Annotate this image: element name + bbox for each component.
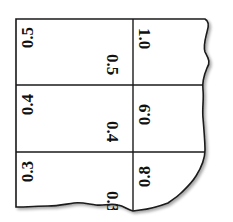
cell-value-r0-mid: 0.5 [104, 54, 121, 75]
cell-value-r1-left: 0.4 [19, 94, 36, 115]
cell-value-r1-mid: 0.4 [104, 121, 121, 142]
cell-value-r2-mid: 0.3 [104, 191, 121, 210]
cell-value-r0-left: 0.5 [19, 27, 36, 48]
cell-value-r1-right: 0.9 [136, 104, 153, 125]
cell-value-r0-right: 1.0 [136, 28, 153, 49]
cell-value-r2-left: 0.3 [19, 161, 36, 182]
torn-cell-clip: 0.3 [100, 175, 130, 210]
cell-value-r2-right: 0.8 [136, 166, 153, 187]
torn-table-fragment: 0.5 0.5 1.0 0.4 0.4 0.9 0.3 0.3 0.8 [0, 0, 233, 222]
